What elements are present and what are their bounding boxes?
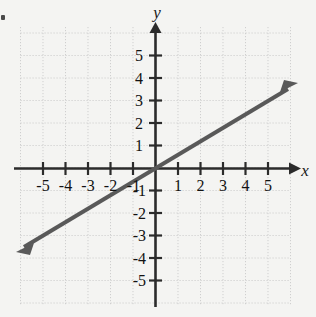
y-axis-label: y bbox=[151, 3, 161, 22]
x-tick-label: 5 bbox=[264, 177, 272, 194]
y-tick-label: 1 bbox=[135, 137, 143, 154]
coordinate-plane-figure: -5 -4 -3 -2 -1 1 2 3 4 5 5 4 3 2 1 -1 -2… bbox=[0, 0, 316, 317]
figure-background bbox=[0, 0, 316, 317]
x-tick-label: 4 bbox=[242, 177, 250, 194]
x-tick-label: 2 bbox=[197, 177, 205, 194]
x-tick-label: 1 bbox=[174, 177, 182, 194]
page-edge-speck bbox=[1, 15, 5, 20]
y-tick-label: -3 bbox=[133, 227, 146, 244]
x-tick-label: -2 bbox=[104, 177, 117, 194]
y-tick-label: -4 bbox=[133, 250, 146, 267]
y-tick-label: 3 bbox=[135, 92, 143, 109]
x-tick-label: -5 bbox=[36, 177, 49, 194]
x-tick-label: 3 bbox=[219, 177, 227, 194]
x-axis-label: x bbox=[300, 161, 309, 180]
y-tick-label: 4 bbox=[135, 70, 143, 87]
y-tick-label: -1 bbox=[133, 182, 146, 199]
y-tick-label: -5 bbox=[133, 272, 146, 289]
graph-canvas: -5 -4 -3 -2 -1 1 2 3 4 5 5 4 3 2 1 -1 -2… bbox=[0, 0, 316, 317]
x-tick-label: -3 bbox=[81, 177, 94, 194]
y-tick-label: -2 bbox=[133, 205, 146, 222]
y-tick-label: 5 bbox=[135, 47, 143, 64]
x-tick-label: -4 bbox=[59, 177, 72, 194]
y-tick-label: 2 bbox=[135, 115, 143, 132]
